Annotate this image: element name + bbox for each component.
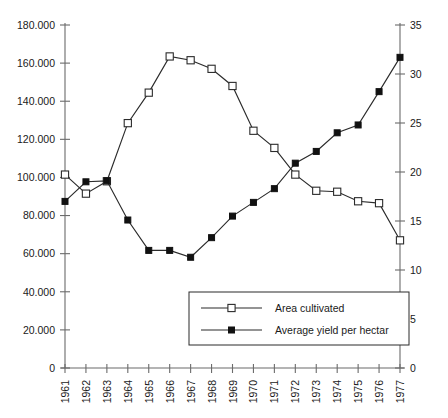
data-point-marker: Average yield per hectar 1971: 18.3	[271, 186, 277, 192]
data-point-marker: Average yield per hectar 1969: 15.5	[230, 213, 236, 219]
right-axis-tick-label: 0	[410, 362, 416, 374]
left-axis-tick-label: 100.000	[17, 171, 55, 183]
x-axis-tick-label: 1977	[394, 380, 406, 404]
right-axis-tick-label: 25	[410, 117, 422, 129]
data-point-marker: Average yield per hectar 1970: 16.9	[250, 199, 256, 205]
x-axis-tick-label: 1966	[164, 380, 176, 404]
x-axis-tick-label: 1970	[247, 380, 259, 404]
legend-label: Area cultivated	[275, 302, 345, 314]
data-point-marker: Area cultivated 1972: 101500	[292, 171, 299, 178]
legend-box	[189, 292, 409, 345]
x-axis-tick-label: 1969	[227, 380, 239, 404]
data-point-marker: Area cultivated 1964: 128500	[124, 120, 131, 127]
right-axis-tick-label: 20	[410, 166, 422, 178]
right-axis-tick-label: 15	[410, 215, 422, 227]
x-axis-tick-label: 1972	[289, 380, 301, 404]
data-point-marker: Area cultivated 1961: 101500	[61, 171, 68, 178]
data-point-marker: Area cultivated 1966: 163500	[166, 53, 173, 60]
data-point-marker: Area cultivated 1970: 124500	[250, 127, 257, 134]
data-point-marker: Average yield per hectar 1963: 19.1	[104, 178, 110, 184]
x-axis-tick-label: 1962	[80, 380, 92, 404]
right-axis-tick-label: 5	[410, 313, 416, 325]
data-point-marker: Average yield per hectar 1964: 15.1	[125, 217, 131, 223]
data-point-marker: Area cultivated 1969: 148000	[229, 82, 236, 89]
data-point-marker: Area cultivated 1977: 67000	[396, 237, 403, 244]
data-point-marker: Average yield per hectar 1974: 24	[334, 130, 340, 136]
x-axis-tick-label: 1975	[352, 380, 364, 404]
data-point-marker: Area cultivated 1976: 86500	[375, 200, 382, 207]
left-axis-tick-label: 80.000	[23, 209, 55, 221]
data-point-marker: Area cultivated 1973: 93000	[313, 187, 320, 194]
data-point-marker: Average yield per hectar 1966: 12	[167, 247, 173, 253]
x-axis-tick-label: 1964	[122, 380, 134, 404]
dual-axis-line-chart: 020.00040.00060.00080.000100.000120.0001…	[0, 0, 448, 418]
data-point-marker: Average yield per hectar 1973: 22.1	[313, 148, 319, 154]
x-axis-tick-label: 1965	[143, 380, 155, 404]
right-axis-tick-label: 35	[410, 19, 422, 31]
data-point-marker: Area cultivated 1975: 87500	[355, 198, 362, 205]
chart-container: 020.00040.00060.00080.000100.000120.0001…	[0, 0, 448, 418]
right-axis-tick-label: 10	[410, 264, 422, 276]
data-point-marker: Average yield per hectar 1972: 20.9	[292, 160, 298, 166]
x-axis-tick-label: 1976	[373, 380, 385, 404]
data-point-marker: Average yield per hectar 1976: 28.2	[376, 89, 382, 95]
data-point-marker: Area cultivated 1968: 157000	[208, 65, 215, 72]
x-axis-tick-label: 1971	[268, 380, 280, 404]
data-point-marker: Average yield per hectar 1965: 12	[146, 247, 152, 253]
data-point-marker: Area cultivated 1965: 144500	[145, 89, 152, 96]
data-point-marker: Area cultivated 1962: 91500	[82, 190, 89, 197]
x-axis-tick-label: 1961	[59, 380, 71, 404]
data-point-marker: Average yield per hectar 1968: 13.3	[209, 235, 215, 241]
left-axis-tick-label: 140.000	[17, 95, 55, 107]
data-point-marker: Area cultivated 1967: 161500	[187, 57, 194, 64]
series-layer: Area cultivated 1961: 101500Area cultiva…	[61, 53, 403, 260]
data-point-marker: Area cultivated 1974: 92500	[334, 188, 341, 195]
x-axis-tick-label: 1968	[206, 380, 218, 404]
x-axis-tick-label: 1973	[310, 380, 322, 404]
x-axis-tick-label: 1963	[101, 380, 113, 404]
axes-layer: 020.00040.00060.00080.000100.000120.0001…	[17, 19, 422, 404]
data-point-marker: Average yield per hectar 1975: 24.8	[355, 122, 361, 128]
x-axis-tick-label: 1974	[331, 380, 343, 404]
right-axis-tick-label: 30	[410, 68, 422, 80]
data-point-marker: Area cultivated 1971: 115500	[271, 144, 278, 151]
legend-sample-marker	[229, 327, 235, 333]
data-point-marker: Average yield per hectar 1977: 31.7	[397, 54, 403, 60]
legend-label: Average yield per hectar	[275, 324, 389, 336]
left-axis-tick-label: 40.000	[23, 286, 55, 298]
left-axis-tick-label: 180.000	[17, 19, 55, 31]
data-point-marker: Average yield per hectar 1961: 17	[62, 198, 68, 204]
legend-layer: Area cultivatedAverage yield per hectar	[189, 292, 409, 345]
left-axis-tick-label: 0	[49, 362, 55, 374]
data-point-marker: Average yield per hectar 1962: 19	[83, 179, 89, 185]
legend-sample-marker	[228, 304, 235, 311]
x-axis-tick-label: 1967	[185, 380, 197, 404]
left-axis-tick-label: 120.000	[17, 133, 55, 145]
left-axis-tick-label: 20.000	[23, 324, 55, 336]
left-axis-tick-label: 160.000	[17, 57, 55, 69]
left-axis-tick-label: 60.000	[23, 247, 55, 259]
data-point-marker: Average yield per hectar 1967: 11.3	[188, 254, 194, 260]
